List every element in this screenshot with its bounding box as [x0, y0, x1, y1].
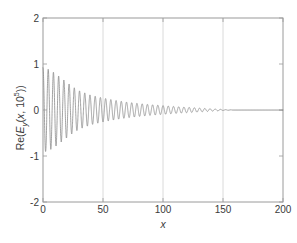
gridline-group	[103, 18, 223, 202]
plot-canvas	[0, 0, 297, 243]
figure-panel: Re(Ey(x, 105)) x 2 1 0 -1 -2 0 50 100 15…	[0, 0, 297, 243]
